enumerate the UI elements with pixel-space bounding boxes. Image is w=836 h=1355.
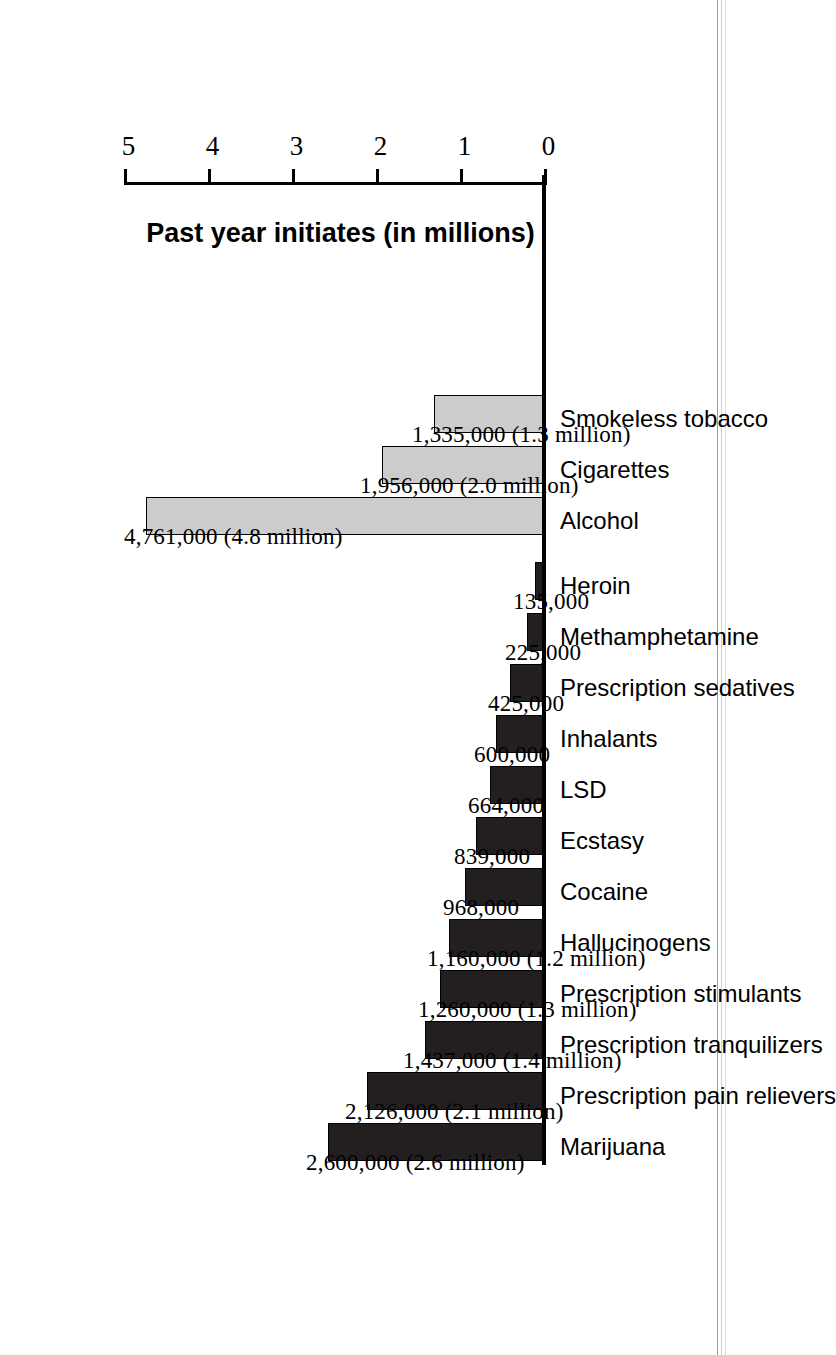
axis-title: Past year initiates (in millions)	[131, 217, 551, 248]
category-label: Prescription pain relievers	[560, 1082, 836, 1110]
category-label: Prescription stimulants	[560, 980, 801, 1008]
plot-area: 2,600,000 (2.6 million)2,126,000 (2.1 mi…	[126, 193, 546, 1165]
rotated-figure-wrapper: 2,600,000 (2.6 million)2,126,000 (2.1 mi…	[54, 173, 674, 1183]
bar-value-label: 968,000	[443, 895, 519, 921]
axis-tick-label: 1	[458, 130, 472, 161]
axis-tick-label: 2	[374, 130, 388, 161]
category-label: Alcohol	[560, 507, 639, 535]
category-label: Methamphetamine	[560, 623, 759, 651]
category-label: Hallucinogens	[560, 929, 711, 957]
value-axis-line	[542, 175, 546, 1165]
bar-value-label: 664,000	[468, 793, 544, 819]
axis-tick-label: 3	[290, 130, 304, 161]
category-label: Prescription tranquilizers	[560, 1031, 823, 1059]
category-label: Marijuana	[560, 1133, 665, 1161]
bar-value-label: 600,000	[474, 742, 550, 768]
axis-tick-label: 5	[122, 130, 136, 161]
category-label: Cocaine	[560, 878, 648, 906]
category-label: Inhalants	[560, 725, 657, 753]
value-axis-spine	[126, 182, 546, 185]
category-label: Smokeless tobacco	[560, 405, 768, 433]
axis-tick-label: 0	[542, 130, 556, 161]
axis-tick-label: 4	[206, 130, 220, 161]
category-label: Prescription sedatives	[560, 674, 795, 702]
category-label: Heroin	[560, 572, 631, 600]
category-label: LSD	[560, 776, 607, 804]
bar-value-label: 2,126,000 (2.1 million)	[345, 1099, 564, 1125]
bar-value-label: 4,761,000 (4.8 million)	[124, 524, 343, 550]
category-label: Ecstasy	[560, 827, 644, 855]
bar-value-label: 2,600,000 (2.6 million)	[306, 1150, 525, 1176]
bar-value-label: 839,000	[454, 844, 530, 870]
bar-chart: 2,600,000 (2.6 million)2,126,000 (2.1 mi…	[54, 173, 674, 1183]
category-label: Cigarettes	[560, 456, 669, 484]
bar-value-label: 425,000	[488, 691, 564, 717]
